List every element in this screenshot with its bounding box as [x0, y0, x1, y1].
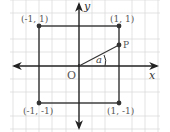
origin-label: O [67, 69, 76, 82]
point-p [117, 43, 122, 48]
point-bottom-right [117, 101, 122, 106]
point-bottom-left [37, 101, 42, 106]
point-top-left [37, 24, 42, 29]
x-axis-label: x [149, 69, 156, 82]
y-axis-label: y [83, 0, 91, 13]
label-p: P [123, 40, 129, 50]
angle-label: a [96, 54, 102, 65]
coordinate-diagram: (-1, 1) (1, 1) (-1, -1) (1, -1) P y x O … [0, 0, 170, 132]
label-top-left: (-1, 1) [21, 14, 48, 24]
label-bottom-left: (-1, -1) [23, 106, 53, 116]
label-top-right: (1, 1) [110, 14, 134, 24]
label-bottom-right: (1, -1) [107, 106, 134, 116]
point-top-right [117, 24, 122, 29]
